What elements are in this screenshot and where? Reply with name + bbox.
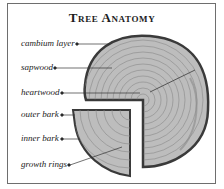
label-heartwood: heartwood <box>21 87 60 97</box>
label-growth-rings: growth rings <box>21 159 67 169</box>
label-outer-bark: outer bark <box>21 109 59 119</box>
label-cambium-layer: cambium layer <box>21 38 75 48</box>
label-inner-bark: inner bark <box>21 133 59 143</box>
label-sapwood: sapwood <box>21 62 53 72</box>
